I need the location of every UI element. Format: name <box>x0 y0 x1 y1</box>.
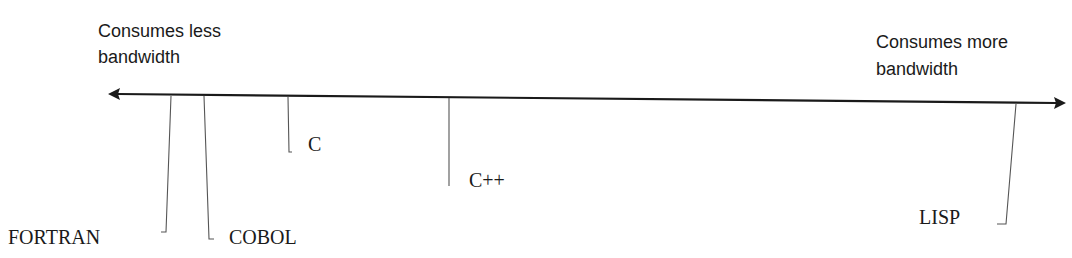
item-lisp: LISP <box>919 104 1016 228</box>
right-label-line1: Consumes more <box>876 32 1008 52</box>
item-label: C++ <box>469 169 505 191</box>
item-cobol: COBOL <box>204 96 297 248</box>
item-label: FORTRAN <box>8 226 100 248</box>
leader-line <box>288 97 292 152</box>
item-c: C <box>288 97 321 155</box>
left-label-line2: bandwidth <box>98 47 180 67</box>
leader-line <box>997 104 1016 224</box>
leader-line <box>204 96 214 239</box>
axis-arrow <box>108 88 1066 109</box>
leader-line <box>161 96 171 232</box>
left-label-line1: Consumes less <box>98 21 221 41</box>
item-label: COBOL <box>229 226 297 248</box>
item-fortran: FORTRAN <box>8 96 171 248</box>
right-label-line2: bandwidth <box>876 59 958 79</box>
item-label: LISP <box>919 206 960 228</box>
item-label: C <box>308 133 321 155</box>
bandwidth-spectrum-diagram: Consumes less bandwidth Consumes more ba… <box>0 0 1072 258</box>
item-cpp: C++ <box>449 98 505 191</box>
